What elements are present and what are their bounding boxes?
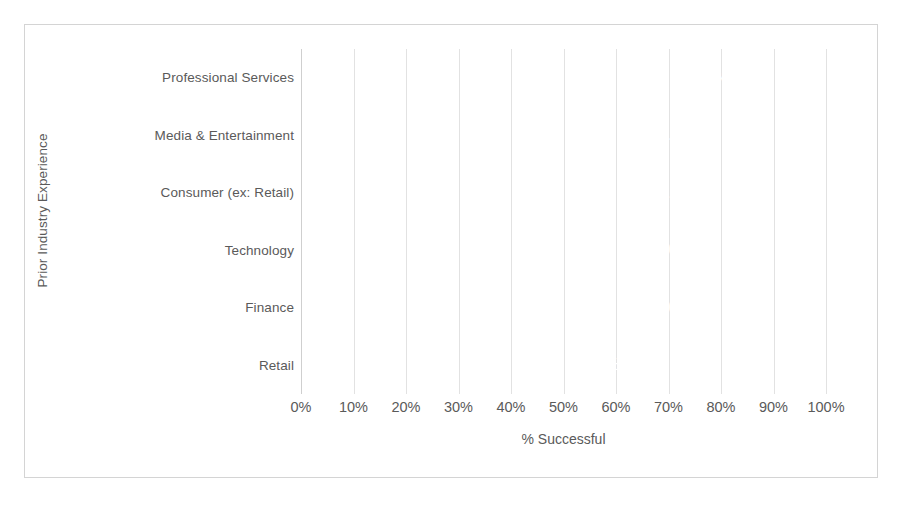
- bar-data-label: 75.0%: [301, 230, 695, 271]
- x-tick-label: 60%: [601, 399, 630, 415]
- x-tick-label: 70%: [654, 399, 683, 415]
- category-label: Retail: [259, 345, 294, 386]
- x-tick-label: 90%: [759, 399, 788, 415]
- bar-series: 83.5%77.1%76.7%75.0%75.0%62.5%: [301, 49, 826, 394]
- bar-data-label: 83.5%: [301, 57, 739, 98]
- x-tick-label: 40%: [496, 399, 525, 415]
- bar[interactable]: 76.7%: [301, 172, 704, 213]
- x-tick-label: 0%: [291, 399, 312, 415]
- x-tick-label: 50%: [549, 399, 578, 415]
- bar[interactable]: 83.5%: [301, 57, 739, 98]
- category-axis-labels: Professional ServicesMedia & Entertainme…: [25, 49, 294, 394]
- x-tick-label: 30%: [444, 399, 473, 415]
- x-axis-tick-labels: 0%10%20%30%40%50%60%70%80%90%100%: [301, 399, 826, 421]
- bar-data-label: 77.1%: [301, 115, 706, 156]
- bar[interactable]: 77.1%: [301, 115, 706, 156]
- x-axis-title: % Successful: [301, 431, 826, 447]
- x-tick-label: 80%: [706, 399, 735, 415]
- category-label: Finance: [245, 287, 294, 328]
- x-tick-label: 100%: [807, 399, 844, 415]
- x-tick-label: 20%: [391, 399, 420, 415]
- plot-area: 83.5%77.1%76.7%75.0%75.0%62.5%: [301, 49, 826, 394]
- category-label: Media & Entertainment: [155, 115, 294, 156]
- x-tick-label: 10%: [339, 399, 368, 415]
- gridline-100: [826, 49, 827, 394]
- bar[interactable]: 75.0%: [301, 287, 695, 328]
- bar-data-label: 62.5%: [301, 345, 629, 386]
- category-label: Technology: [225, 230, 294, 271]
- category-label: Consumer (ex: Retail): [161, 172, 294, 213]
- chart-frame: Prior Industry Experience Professional S…: [24, 24, 878, 478]
- category-label: Professional Services: [162, 57, 294, 98]
- bar[interactable]: 62.5%: [301, 345, 629, 386]
- bar[interactable]: 75.0%: [301, 230, 695, 271]
- bar-data-label: 76.7%: [301, 172, 704, 213]
- bar-data-label: 75.0%: [301, 287, 695, 328]
